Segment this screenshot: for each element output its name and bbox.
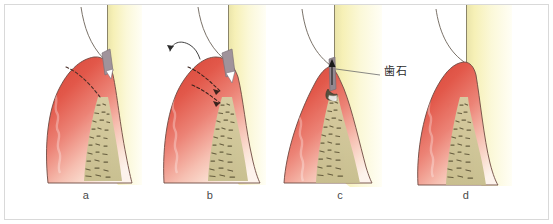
calculus-label: 歯石 xyxy=(384,62,408,78)
reflection-arrow-curve xyxy=(170,42,200,59)
panel-label-d: d xyxy=(398,189,534,201)
panel-c: c xyxy=(272,5,408,211)
tooth-crown-outline xyxy=(436,9,464,62)
tooth-crown-outline xyxy=(198,7,224,59)
tooth-crown-outline xyxy=(302,9,330,65)
panel-label-b: b xyxy=(142,189,278,201)
panel-d-illustration xyxy=(398,5,534,190)
panel-a-illustration xyxy=(18,5,154,190)
panel-label-a: a xyxy=(18,189,154,201)
panel-c-illustration xyxy=(272,5,408,190)
panel-b-illustration xyxy=(142,5,278,190)
panel-d: d xyxy=(398,5,534,211)
reflection-arrow-head xyxy=(167,45,174,51)
panel-label-c: c xyxy=(272,189,408,201)
figure-root: a xyxy=(0,0,553,224)
panel-a: a xyxy=(18,5,154,211)
panel-b: b xyxy=(142,5,278,211)
tooth-crown-outline xyxy=(81,7,104,59)
